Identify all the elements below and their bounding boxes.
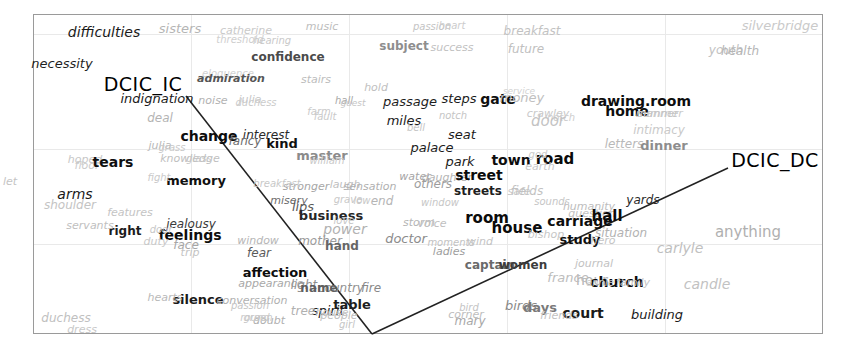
word-label: confidence [251, 51, 324, 63]
word-label: palace [411, 141, 454, 154]
word-label: tree [291, 305, 315, 317]
word-label: street [455, 168, 503, 182]
word-label: deal [147, 112, 173, 124]
word-label: tears [93, 155, 134, 169]
word-label: fire [361, 282, 381, 294]
word-label: future [508, 43, 544, 55]
word-label: necessity [31, 57, 92, 70]
word-label: intimacy [633, 124, 685, 136]
word-label: fear [247, 247, 271, 259]
word-label: dinner [640, 139, 688, 152]
word-label: girl [339, 320, 355, 330]
word-label: hold [364, 82, 388, 93]
word-label: fault [314, 112, 337, 122]
word-label: guest [340, 99, 365, 108]
word-label: breakfast [504, 25, 561, 37]
word-label: letters [605, 138, 644, 150]
word-label: hand [325, 240, 359, 252]
word-label: mary [454, 315, 485, 327]
word-label: hearing [253, 36, 291, 46]
word-label: women [499, 259, 548, 271]
word-label: passion [231, 301, 269, 311]
word-label: let [3, 176, 17, 187]
word-label: notch [439, 111, 467, 121]
word-label: love [334, 216, 355, 226]
word-label: shoulder [44, 199, 96, 211]
word-label: hero [591, 235, 616, 246]
word-label: health [721, 45, 759, 57]
word-label: doctor [385, 232, 427, 245]
word-label: dress [67, 324, 97, 335]
word-label: family [616, 277, 650, 288]
word-label: voice [417, 218, 446, 229]
word-label: park [445, 155, 474, 168]
word-label: end [371, 195, 394, 207]
word-label: name [300, 282, 337, 294]
word-label: france [547, 271, 588, 284]
word-label: door [531, 114, 565, 129]
word-label: sisters [159, 22, 201, 35]
word-label: fancy [229, 135, 262, 147]
word-label: grave [334, 195, 363, 205]
word-label: breakfast [253, 179, 300, 189]
word-label: manner [636, 108, 679, 119]
word-label: hall [591, 209, 622, 224]
word-label: ladies [433, 246, 465, 257]
word-label: god [529, 150, 548, 160]
gridline-vertical-3 [665, 15, 666, 333]
word-label: journal [575, 258, 613, 269]
word-label: service [503, 87, 535, 96]
word-label: house [315, 307, 348, 318]
word-label: memory [166, 174, 226, 187]
word-label: carlyle [657, 241, 704, 255]
word-label: silverbridge [742, 19, 819, 32]
word-label: heart [439, 21, 466, 31]
word-label: duchess [235, 98, 276, 108]
word-label: others [414, 178, 452, 190]
word-embedding-scatter-plot: difficultiessisterscatherinethresholdhea… [0, 0, 857, 360]
anchor-label-dcic-ic: DCIC_IC [104, 75, 183, 94]
word-label: round [240, 313, 269, 323]
word-label: candle [684, 277, 731, 291]
word-label: sounds [534, 197, 570, 207]
word-label: admiration [197, 73, 265, 84]
word-label: subject [379, 40, 428, 52]
word-label: friends [540, 310, 578, 321]
word-label: streets [454, 185, 502, 197]
word-label: earth [525, 161, 554, 172]
word-label: hearts [147, 292, 182, 303]
word-label: kind [266, 137, 298, 150]
word-label: noise [198, 95, 227, 106]
word-label: window [237, 235, 279, 246]
word-label: building [631, 308, 683, 321]
gridline-horizontal-0 [34, 34, 822, 35]
word-label: william [309, 156, 344, 166]
word-label: difficulties [68, 25, 141, 39]
anchor-label-dcic-dc: DCIC_DC [731, 151, 819, 170]
gridline-vertical-2 [507, 15, 508, 333]
word-label: window [421, 198, 459, 208]
word-label: annie [586, 278, 614, 288]
word-label: stairs [301, 74, 331, 85]
word-label: bell [407, 123, 425, 133]
word-label: passage [383, 95, 437, 108]
word-label: door [150, 225, 173, 235]
word-label: servants [66, 220, 113, 231]
word-label: glass [186, 154, 212, 164]
word-label: anything [715, 225, 781, 240]
word-label: music [306, 21, 339, 32]
word-label: success [430, 42, 473, 53]
word-label: sensation [343, 181, 396, 192]
word-label: duty [144, 236, 169, 247]
word-label: features [107, 207, 153, 218]
word-label: yards [626, 194, 659, 206]
word-label: wind [467, 236, 493, 247]
word-label: fight [147, 173, 170, 183]
word-label: steps [442, 92, 477, 105]
word-label: trip [181, 247, 200, 258]
